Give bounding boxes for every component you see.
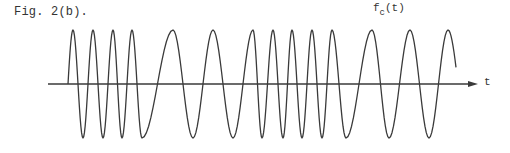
- waveform-plot: [0, 0, 510, 153]
- axis-arrow-icon: [468, 81, 478, 87]
